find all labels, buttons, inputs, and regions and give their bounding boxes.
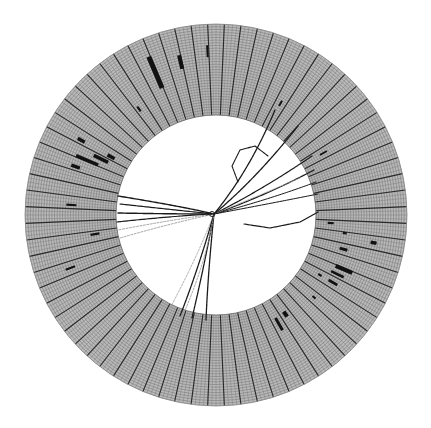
energy-hit — [340, 248, 348, 250]
track — [214, 194, 318, 214]
layer-ring — [116, 115, 316, 315]
track — [214, 156, 312, 214]
track — [118, 213, 214, 214]
inner-edge — [116, 115, 316, 315]
energy-hit — [66, 205, 76, 206]
energy-hit — [371, 242, 377, 243]
track — [118, 214, 214, 230]
energy-hit — [91, 233, 100, 234]
track — [232, 146, 268, 182]
calorimeter-layer-lines — [25, 24, 407, 406]
track — [214, 170, 314, 214]
energy-hit — [207, 45, 208, 57]
energy-hit — [284, 312, 287, 317]
track — [117, 214, 214, 222]
energy-hit — [343, 233, 347, 234]
event-display — [0, 0, 431, 428]
track — [214, 182, 316, 214]
track — [214, 178, 300, 214]
track — [244, 212, 318, 228]
track — [120, 204, 214, 214]
